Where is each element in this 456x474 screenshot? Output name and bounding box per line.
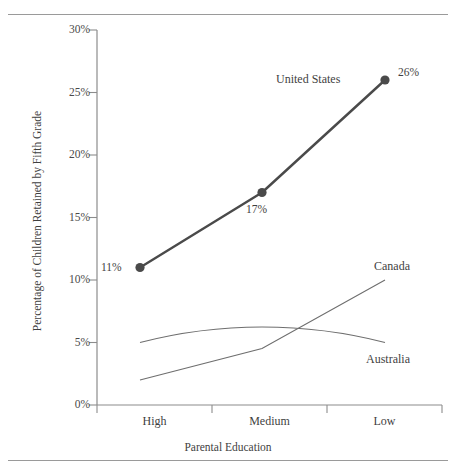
- y-axis-ticks: [89, 30, 97, 405]
- x-tick-label-low: Low: [327, 414, 442, 429]
- data-point-us-low: [380, 75, 389, 84]
- series-line-united-states: [140, 80, 385, 268]
- series-line-australia: [140, 327, 385, 343]
- series-label-united-states: United States: [276, 72, 340, 87]
- series-line-canada: [140, 280, 385, 380]
- y-tick-label: 20%: [46, 149, 90, 161]
- y-tick-label: 10%: [46, 274, 90, 286]
- point-label-us-high: 11%: [101, 261, 122, 273]
- point-label-us-medium: 17%: [246, 203, 267, 215]
- y-tick-label: 15%: [46, 212, 90, 224]
- y-tick-label: 25%: [46, 87, 90, 99]
- x-axis-ticks: [97, 405, 442, 413]
- data-point-us-medium: [257, 188, 266, 197]
- y-tick-label: 5%: [46, 337, 90, 349]
- x-axis-title: Parental Education: [0, 441, 456, 453]
- x-tick-label-medium: Medium: [212, 414, 327, 429]
- y-axis-title: Percentage of Children Retained by Fifth…: [31, 66, 43, 376]
- y-tick-label: 30%: [46, 24, 90, 36]
- chart-figure: 30% 25% 20% 15% 10% 5% 0% High Medium Lo…: [0, 0, 456, 474]
- series-label-australia: Australia: [366, 352, 410, 367]
- data-point-us-high: [135, 263, 144, 272]
- series-label-canada: Canada: [374, 259, 410, 274]
- point-label-us-low: 26%: [398, 66, 419, 78]
- x-tick-label-high: High: [97, 414, 212, 429]
- y-tick-label: 0%: [46, 399, 90, 411]
